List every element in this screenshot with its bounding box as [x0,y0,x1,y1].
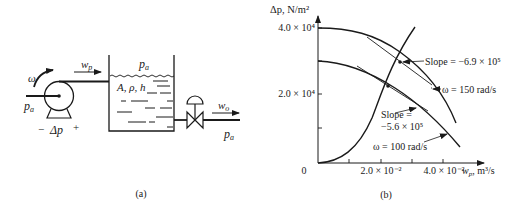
pump-plus-label: + [73,121,79,133]
x-tick-label-0.04: 4.0 × 10⁻² [423,165,464,176]
panel-a-schematic: ω pa − Δp + wp pa A, ρ, h wo pa (a) [23,55,240,200]
tank-top-pressure-label: pa [138,57,149,72]
panel-b-chart: Δp, N/m² 4.0 × 10⁴ 2.0 × 10⁴ 0 2.0 × 10⁻… [270,4,501,201]
outlet-pressure-label: pa [223,127,234,142]
leader-slope-150 [403,61,424,62]
slope-100-annotation-line2: −5.6 × 10⁵ [381,121,423,132]
slope-100-annotation-line1: Slope = [381,109,412,120]
tangent-100 [357,66,428,111]
omega-label: ω [28,72,36,84]
origin-label: 0 [302,165,307,176]
x-tick-label-0.02: 2.0 × 10⁻² [360,165,401,176]
curve-100-annotation: ω = 100 rad/s [373,141,427,152]
control-valve-icon [187,96,203,128]
panel-a-caption: (a) [135,188,146,200]
panel-b-caption: (b) [380,189,392,201]
slope-150-annotation: Slope = −6.9 × 10⁵ [425,56,501,67]
operating-point-100 [386,84,390,88]
y-tick-label-40000: 4.0 × 10⁴ [278,22,315,33]
tank-params-label: A, ρ, h [116,81,146,93]
pump-delta-p-label: Δp [49,123,63,137]
outlet-flow-label: wo [218,99,229,113]
figure-canvas: ω pa − Δp + wp pa A, ρ, h wo pa (a) [0,0,528,205]
x-axis-label: wp, m³/s [462,165,495,178]
pump-minus-label: − [38,123,44,135]
pump-icon [45,82,74,119]
pump-flow-label: wp [81,58,92,72]
leader-curve-100 [424,134,447,142]
pump-inlet-pressure-label: pa [23,99,34,114]
y-tick-label-20000: 2.0 × 10⁴ [278,88,315,99]
operating-point-150 [398,60,402,64]
liquid-surface [110,75,174,77]
curve-150-annotation: ω = 150 rad/s [442,84,496,95]
y-axis-label: Δp, N/m² [270,4,309,15]
